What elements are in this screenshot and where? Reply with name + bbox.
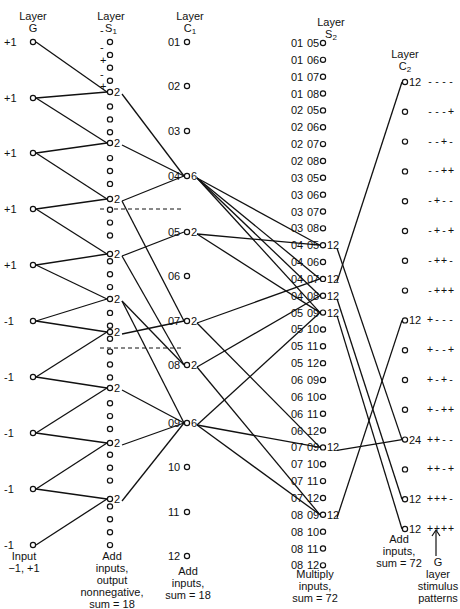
s2-node-b: 12 (307, 357, 319, 369)
s1-node-active (107, 440, 112, 445)
g-node-value: +1 (4, 92, 17, 104)
g-node-value: -1 (4, 483, 14, 495)
c1-node (184, 173, 189, 178)
c2-node (402, 109, 407, 114)
g-node (30, 318, 35, 323)
s2-node (320, 74, 325, 79)
g-node-value: +1 (4, 259, 17, 271)
s2-node-b: 06 (307, 121, 319, 133)
c2-node (402, 169, 407, 174)
s1-node (107, 414, 112, 419)
s2-node (320, 445, 325, 450)
s2-node-a: 02 (291, 104, 303, 116)
c1-node (184, 128, 189, 133)
c2-node-value: 24 (409, 434, 421, 446)
s2-node-a: 03 (291, 206, 303, 218)
s1-node (107, 156, 112, 161)
s1-node (107, 207, 112, 212)
g-node (30, 150, 35, 155)
c2-node (402, 79, 407, 84)
connection-line (36, 209, 107, 254)
c1-node-value: 2 (191, 315, 197, 327)
c2-pattern: -++- (427, 255, 455, 267)
connection-line (337, 316, 402, 529)
s1-node-value: 2 (114, 437, 120, 449)
s2-node-a: 04 (291, 273, 303, 285)
layer-c2-header: Layer C2 (388, 48, 422, 76)
s2-node-a: 04 (291, 256, 303, 268)
g-node (30, 262, 35, 267)
s1-node (107, 78, 112, 83)
s2-node-a: 05 (291, 323, 303, 335)
s1-node-value: 2 (114, 137, 120, 149)
c1-node-id: 06 (168, 270, 180, 282)
connection-line (36, 433, 107, 443)
s2-node-a: 02 (291, 155, 303, 167)
s1-node-value: 2 (114, 248, 120, 260)
s2-node-b: 10 (307, 458, 319, 470)
layer-c1-title: Layer (173, 10, 207, 22)
s1-node-value: 2 (114, 86, 120, 98)
c1-node (184, 318, 189, 323)
c2-pattern: --++ (427, 165, 455, 177)
node-circles (30, 39, 407, 568)
s2-node-a: 03 (291, 189, 303, 201)
g-node (30, 374, 35, 379)
note-g-input: Input −1, +1 (4, 550, 44, 574)
s2-node-b: 08 (307, 155, 319, 167)
c1-node (184, 553, 189, 558)
s2-node-a: 05 (291, 340, 303, 352)
s1-node (107, 272, 112, 277)
s2-node-b: 05 (307, 239, 319, 251)
s1-node-value: 2 (114, 293, 120, 305)
s1-node-active (107, 140, 112, 145)
connection-line (36, 92, 107, 98)
g-node (30, 430, 35, 435)
s2-node-a: 08 (291, 526, 303, 538)
c2-pattern: --+- (427, 136, 455, 148)
s1-sign-marker: - (100, 24, 104, 36)
s2-node-b: 11 (307, 340, 318, 352)
s2-node-b: 10 (307, 526, 319, 538)
c2-node (402, 526, 407, 531)
s1-node (107, 65, 112, 70)
s2-node-a: 07 (291, 441, 303, 453)
g-node (30, 486, 35, 491)
connection-line (337, 440, 402, 451)
s2-node (320, 377, 325, 382)
s2-node-b: 07 (307, 206, 319, 218)
s2-node-b: 07 (307, 138, 319, 150)
c1-node-id: 01 (168, 36, 180, 48)
s1-node (107, 233, 112, 238)
s1-node (107, 259, 112, 264)
c2-node (402, 437, 407, 442)
s2-node (320, 192, 325, 197)
c1-node (184, 273, 189, 278)
s1-node (107, 310, 112, 315)
s2-node (320, 91, 325, 96)
s1-node-active (107, 496, 112, 501)
g-node-value: +1 (4, 147, 17, 159)
s1-node-active (107, 296, 112, 301)
s1-node (107, 362, 112, 367)
c1-node-id: 03 (168, 125, 180, 137)
s2-node-b: 07 (307, 71, 319, 83)
c1-node-value: 2 (191, 359, 197, 371)
layer-c1-header: Layer C1 (173, 10, 207, 38)
connection-line (337, 82, 402, 282)
connection-line (337, 320, 402, 517)
s1-node (107, 130, 112, 135)
s2-node (320, 209, 325, 214)
g-node-value: -1 (4, 427, 14, 439)
s2-node-b: 09 (307, 441, 319, 453)
s2-node-b: 08 (307, 88, 319, 100)
g-node (30, 95, 35, 100)
s2-node-a: 05 (291, 307, 303, 319)
s1-node (107, 465, 112, 470)
g-node (30, 206, 35, 211)
c2-pattern: -+-+ (427, 225, 455, 237)
connection-line (36, 499, 107, 545)
s2-node (320, 479, 325, 484)
c2-node-value: 12 (409, 76, 421, 88)
s2-node-b: 11 (307, 543, 318, 555)
